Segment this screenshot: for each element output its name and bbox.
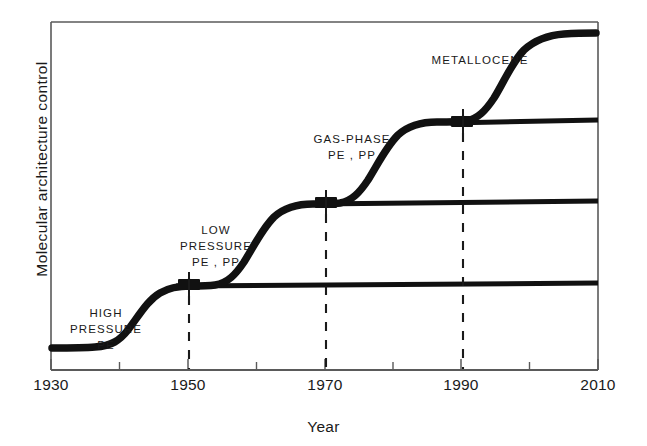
annotation-low-pressure-line3: PE , PP: [164, 254, 268, 270]
technology-s-curve-chart: Molecular architecture control Year 1930…: [0, 0, 647, 446]
annotation-low-pressure: LOW PRESSURE PE , PP: [164, 222, 268, 270]
s-curve-staircase: [52, 33, 596, 348]
annotation-high-pressure-line1: HIGH: [56, 305, 156, 321]
annotation-gas-phase-line2: PE , PP: [297, 147, 407, 163]
annotation-gas-phase-line1: GAS-PHASE: [297, 131, 407, 147]
annotation-low-pressure-line1: LOW: [164, 222, 268, 238]
annotation-metallocene-line1: METALLOCENE: [415, 52, 545, 68]
x-axis-major-ticks: [51, 359, 598, 370]
x-tick-label-2010: 2010: [568, 376, 628, 394]
plateau-line-gas-phase: [314, 201, 598, 204]
plateau-line-low-pressure: [176, 283, 598, 286]
annotation-gas-phase: GAS-PHASE PE , PP: [297, 131, 407, 163]
annotation-high-pressure-line2: PRESSURE: [56, 321, 156, 337]
x-tick-label-1950: 1950: [158, 376, 218, 394]
x-tick-label-1970: 1970: [295, 376, 355, 394]
x-tick-label-1930: 1930: [21, 376, 81, 394]
x-axis-label: Year: [0, 418, 647, 436]
annotation-metallocene: METALLOCENE: [415, 52, 545, 68]
annotation-high-pressure-line3: PE: [56, 337, 156, 353]
y-axis-label: Molecular architecture control: [33, 9, 51, 329]
annotation-high-pressure: HIGH PRESSURE PE: [56, 305, 156, 353]
annotation-low-pressure-line2: PRESSURE: [164, 238, 268, 254]
x-tick-label-1990: 1990: [431, 376, 491, 394]
